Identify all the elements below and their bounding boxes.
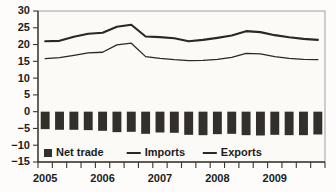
net-trade-bar — [285, 112, 294, 135]
net-trade-bar — [242, 112, 251, 135]
legend-label: Net trade — [56, 146, 104, 158]
net-trade-bar — [112, 112, 121, 132]
x-axis-labels: 20052006200720082009 — [33, 172, 287, 184]
chart-legend: Net tradeImportsExports — [44, 146, 262, 158]
y-axis-ticks: 302520151050−5−10−15 — [11, 4, 38, 167]
x-axis-year-label: 2005 — [33, 172, 57, 184]
net-trade-bar — [227, 112, 236, 134]
legend-label: Exports — [221, 146, 262, 158]
x-axis-year-label: 2008 — [205, 172, 229, 184]
net-trade-bar — [270, 112, 279, 135]
net-trade-bar — [299, 112, 308, 135]
net-trade-bar — [84, 112, 93, 130]
net-trade-bar — [98, 112, 107, 131]
legend-swatch-net-trade — [44, 149, 52, 157]
net-trade-bar — [69, 112, 78, 130]
x-axis-ticks — [38, 162, 325, 168]
x-axis-year-label: 2006 — [90, 172, 114, 184]
chart-svg: 302520151050−5−10−15 2005200620072008200… — [0, 0, 336, 192]
net-trade-bar — [256, 112, 265, 136]
y-tick-label: 10 — [18, 72, 30, 84]
net-trade-bar — [41, 112, 50, 129]
net-trade-bar — [141, 112, 150, 134]
net-trade-bar — [156, 112, 165, 133]
net-trade-bar — [213, 112, 222, 134]
y-tick-label: −5 — [17, 122, 30, 134]
net-trade-bar — [184, 112, 193, 135]
net-trade-bar — [170, 112, 179, 133]
trade-balance-chart: 302520151050−5−10−15 2005200620072008200… — [0, 0, 336, 192]
y-tick-label: 15 — [18, 55, 30, 67]
net-trade-bar — [199, 112, 208, 135]
plot-background — [38, 11, 325, 108]
net-trade-bar — [127, 112, 136, 132]
y-tick-label: 25 — [18, 21, 30, 33]
legend-label: Imports — [145, 146, 185, 158]
x-axis-year-label: 2007 — [148, 172, 172, 184]
y-tick-label: 30 — [18, 4, 30, 16]
y-tick-label: 20 — [18, 38, 30, 50]
net-trade-bar — [313, 112, 322, 135]
y-tick-label: 0 — [24, 105, 30, 117]
y-tick-label: −15 — [11, 155, 30, 167]
y-tick-label: 5 — [24, 88, 30, 100]
y-tick-label: −10 — [11, 139, 30, 151]
x-axis-year-label: 2009 — [263, 172, 287, 184]
net-trade-bar — [55, 112, 64, 130]
